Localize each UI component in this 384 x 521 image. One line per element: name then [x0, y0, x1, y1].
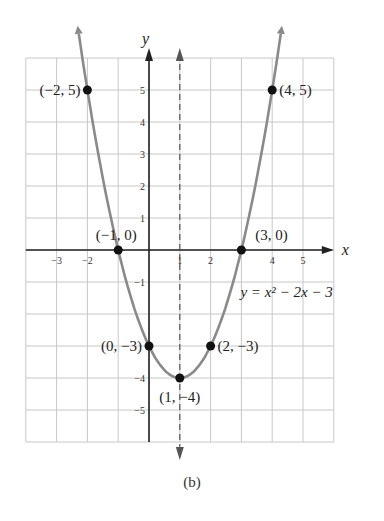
svg-text:−3: −3 [51, 255, 62, 266]
data-point [206, 342, 215, 351]
svg-text:y: y [140, 30, 150, 48]
figure-caption: (b) [0, 474, 384, 491]
svg-text:5: 5 [140, 85, 145, 96]
svg-text:(−1, 0): (−1, 0) [96, 227, 137, 244]
data-point [145, 342, 154, 351]
svg-text:(3, 0): (3, 0) [255, 227, 288, 244]
data-point [83, 86, 92, 95]
data-point [175, 374, 184, 383]
svg-text:−5: −5 [134, 405, 145, 416]
svg-text:1: 1 [140, 213, 145, 224]
svg-text:2: 2 [208, 255, 213, 266]
svg-text:−2: −2 [82, 255, 93, 266]
svg-text:(−2, 5): (−2, 5) [39, 82, 80, 99]
data-point [268, 86, 277, 95]
svg-text:2: 2 [140, 181, 145, 192]
parabola-graph: xy−3−2124554321−1−4−5 y = x² − 2x − 3 (−… [0, 0, 384, 470]
svg-text:(0, −3): (0, −3) [101, 338, 142, 355]
svg-text:5: 5 [301, 255, 306, 266]
svg-text:−1: −1 [134, 277, 145, 288]
svg-text:(2, −3): (2, −3) [218, 338, 259, 355]
svg-text:(4, 5): (4, 5) [279, 82, 312, 99]
svg-text:x: x [341, 241, 349, 258]
parabola-curve: y = x² − 2x − 3 [75, 26, 333, 378]
labeled-points: (−2, 5)(4, 5)(−1, 0)(3, 0)(0, −3)(2, −3)… [39, 82, 311, 406]
data-point [237, 246, 246, 255]
svg-text:−4: −4 [134, 373, 145, 384]
svg-text:(1, −4): (1, −4) [159, 389, 200, 406]
svg-text:y = x² − 2x − 3: y = x² − 2x − 3 [238, 284, 332, 300]
svg-text:4: 4 [140, 117, 145, 128]
data-point [114, 246, 123, 255]
svg-text:4: 4 [270, 255, 275, 266]
svg-text:3: 3 [140, 149, 145, 160]
